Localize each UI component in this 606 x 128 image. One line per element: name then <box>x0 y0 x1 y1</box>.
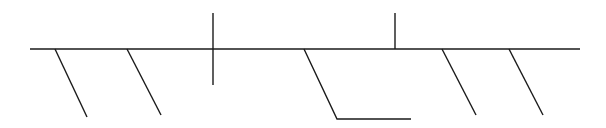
fishbone-diagram <box>0 0 606 128</box>
hooked-diagonal-branch <box>304 49 411 119</box>
diagonal-branch-2 <box>127 49 161 115</box>
diagram-canvas <box>0 0 606 128</box>
diagonal-branch-4 <box>442 49 476 115</box>
diagonal-branch-5 <box>509 49 543 115</box>
diagonal-branch-1 <box>55 49 87 117</box>
